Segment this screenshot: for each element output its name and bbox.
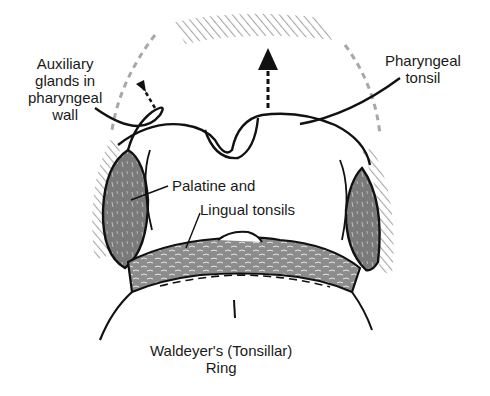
pharyngeal-tonsil-hatch — [175, 14, 332, 44]
lingual-tonsil — [128, 237, 360, 292]
tongue-outline — [100, 292, 132, 340]
pharyngeal-wall-right-dashed — [345, 45, 380, 135]
label-lingual-tonsils: Lingual tonsils — [200, 201, 295, 218]
pharyngeal-arrowhead-icon — [258, 48, 278, 70]
auxiliary-glands-leader — [95, 108, 163, 150]
label-pharyngeal-tonsil: Pharyngeal tonsil — [385, 52, 461, 86]
label-auxiliary-glands: Auxiliary glands in pharyngeal wall — [28, 55, 102, 123]
auxiliary-arrowhead-icon — [136, 80, 146, 92]
tongue-midline — [234, 300, 235, 318]
label-palatine: Palatine and — [172, 177, 255, 194]
palatine-arch — [118, 114, 370, 165]
caption: Waldeyer's (Tonsillar) Ring — [150, 342, 292, 376]
